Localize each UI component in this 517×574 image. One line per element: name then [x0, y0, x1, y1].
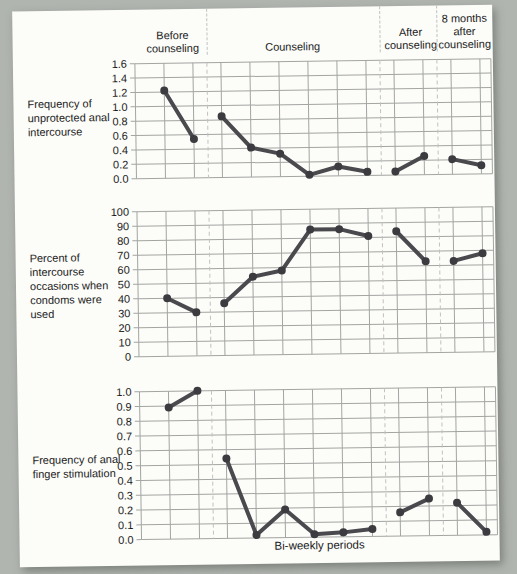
grid-line-horizontal [140, 416, 496, 421]
y-tick-label: 20 [118, 322, 130, 334]
chart-svg: 1.00.90.80.70.60.50.40.30.20.10.0 [17, 379, 499, 548]
y-tick-label: 0.3 [118, 489, 133, 501]
grid-line-horizontal [138, 265, 494, 270]
data-line-counseling [222, 114, 368, 176]
y-tick-label: 0.2 [113, 158, 128, 170]
grid-line-horizontal [135, 59, 491, 64]
grid-line-horizontal [141, 490, 497, 495]
y-tick-label: 1.2 [112, 87, 127, 99]
data-line-after-counseling [395, 156, 424, 171]
grid-line-horizontal [136, 145, 492, 150]
grid-line-horizontal [141, 505, 497, 510]
y-tick-label: 0.6 [113, 130, 128, 142]
y-tick-label: 0.0 [113, 173, 128, 185]
chart-unprotected-intercourse: 1.61.41.21.00.80.60.40.20.0 [13, 51, 495, 191]
y-tick-label: 1.0 [112, 101, 127, 113]
y-tick-label: 60 [117, 264, 129, 276]
data-point [450, 257, 458, 265]
data-line-before-counseling [167, 298, 196, 313]
data-line-after-counseling [396, 231, 425, 262]
phase-label-8-months-after: 8 months after counseling [416, 11, 513, 51]
data-point [335, 225, 343, 233]
grid-line-horizontal [138, 250, 494, 255]
data-line-8-months-after-counseling [454, 253, 483, 261]
grid-line-horizontal [139, 352, 495, 357]
chart-finger-stimulation: 1.00.90.80.70.60.50.40.30.20.10.0 [17, 379, 499, 552]
data-point [368, 525, 376, 533]
grid-line-horizontal [139, 387, 495, 392]
y-tick-label: 0.4 [113, 144, 128, 156]
grid-line-horizontal [140, 401, 496, 406]
grid-line-horizontal [135, 87, 491, 92]
data-line-before-counseling [168, 391, 197, 408]
y-tick-label: 1.6 [112, 58, 127, 70]
grid-line-horizontal [137, 221, 493, 226]
data-point [477, 161, 485, 169]
chart-condom-percent: 1009080706050403020100 [15, 199, 497, 369]
grid-line-horizontal [140, 446, 496, 451]
grid-line-horizontal [140, 431, 496, 436]
y-tick-label: 0.8 [112, 115, 127, 127]
y-tick-label: 50 [118, 278, 130, 290]
y-tick-label: 0 [125, 351, 131, 363]
chart-svg: 1.61.41.21.00.80.60.40.20.0 [13, 51, 495, 187]
y-tick-label: 0.0 [118, 534, 133, 546]
y-tick-label: 1.0 [116, 386, 131, 398]
y-tick-label: 0.6 [117, 445, 132, 457]
y-tick-label: 70 [117, 249, 129, 261]
grid-line-horizontal [135, 73, 491, 78]
y-tick-label: 0.2 [118, 504, 133, 516]
y-tick-label: 40 [118, 293, 130, 305]
grid-line-horizontal [139, 323, 495, 328]
data-point [364, 232, 372, 240]
data-line-before-counseling [164, 90, 194, 139]
y-tick-label: 80 [117, 235, 129, 247]
y-tick-label: 30 [118, 307, 130, 319]
y-tick-label: 0.9 [116, 401, 131, 413]
grid-line-horizontal [136, 116, 492, 121]
y-tick-label: 0.1 [118, 519, 133, 531]
grid-line-horizontal [137, 236, 493, 241]
y-tick-label: 90 [117, 220, 129, 232]
grid-line-horizontal [141, 475, 497, 480]
y-tick-label: 10 [118, 336, 130, 348]
grid-line-horizontal [136, 159, 492, 164]
y-tick-label: 100 [111, 206, 130, 218]
figure-card: Before counseling Counseling After couns… [12, 5, 500, 568]
grid-line-horizontal [138, 279, 494, 284]
grid-line-horizontal [137, 207, 493, 212]
data-point [363, 168, 371, 176]
data-line-counseling [223, 229, 369, 304]
grid-line-horizontal [140, 461, 496, 466]
data-line-8-months-after-counseling [457, 502, 486, 532]
y-tick-label: 0.8 [116, 415, 131, 427]
y-tick-label: 0.4 [117, 475, 132, 487]
y-tick-label: 0.7 [117, 430, 132, 442]
chart-svg: 1009080706050403020100 [15, 199, 497, 365]
data-point [339, 528, 347, 536]
grid-line-horizontal [141, 520, 497, 525]
data-point [448, 155, 456, 163]
y-tick-label: 1.4 [112, 72, 127, 84]
grid-line-horizontal [139, 337, 495, 342]
y-tick-label: 0.5 [117, 460, 132, 472]
data-line-after-counseling [400, 499, 429, 513]
grid-line-horizontal [138, 294, 494, 299]
grid-line-horizontal [135, 102, 491, 107]
